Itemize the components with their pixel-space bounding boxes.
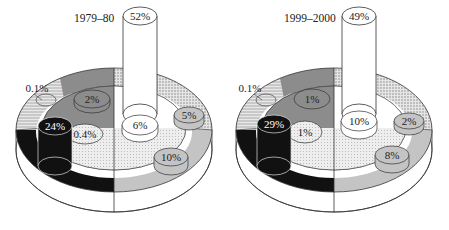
svg-text:1%: 1% — [298, 126, 313, 138]
center-cylinder: 49% — [342, 7, 376, 124]
outer-bottom-left-cylinder: 29% — [257, 115, 291, 175]
svg-text:29%: 29% — [264, 118, 284, 130]
center-value-label: 49% — [349, 10, 369, 22]
svg-text:2%: 2% — [402, 115, 417, 127]
inner-top-left-cylinder: 2% — [74, 90, 110, 113]
inner-right-cylinder: 10% — [341, 111, 377, 139]
center-cylinder: 52% — [123, 7, 157, 124]
inner-bottom-left-label: 1% — [288, 121, 322, 143]
svg-text:10%: 10% — [349, 115, 369, 127]
outer-bottom-right-cylinder: 8% — [375, 146, 409, 173]
center-value-label: 52% — [130, 10, 150, 22]
svg-text:5%: 5% — [182, 109, 197, 121]
inner-right-value-label: 6% — [133, 119, 148, 131]
svg-text:24%: 24% — [45, 120, 65, 132]
svg-text:1%: 1% — [305, 93, 320, 105]
inner-top-left-label: 1% — [294, 89, 330, 109]
svg-text:10%: 10% — [161, 151, 181, 163]
svg-text:8%: 8% — [385, 149, 400, 161]
outer-top-right-cylinder: 2% — [394, 113, 424, 135]
outer-top-right-cylinder: 5% — [174, 107, 204, 130]
inner-top-left-value-label: 2% — [85, 93, 100, 105]
pie-chart-1999-2000: 49% 10% 1% 1% 2% 8% 29% 0.1% 1999–2000 — [224, 0, 449, 230]
svg-text:0.1%: 0.1% — [26, 82, 49, 94]
inner-right-cylinder: 6% — [122, 115, 158, 142]
chart-title: 1979–80 — [74, 12, 115, 24]
outer-bottom-left-cylinder: 24% — [38, 117, 72, 175]
svg-text:0.1%: 0.1% — [239, 82, 262, 94]
outer-bottom-right-cylinder: 10% — [154, 148, 188, 175]
chart-title: 1999–2000 — [284, 12, 336, 24]
pie-chart-1979-80: 52% 6% 2% 0.4% 5% 10% 24% — [0, 0, 225, 230]
svg-text:0.4%: 0.4% — [74, 128, 97, 140]
inner-bottom-left-label: 0.4% — [67, 124, 103, 144]
